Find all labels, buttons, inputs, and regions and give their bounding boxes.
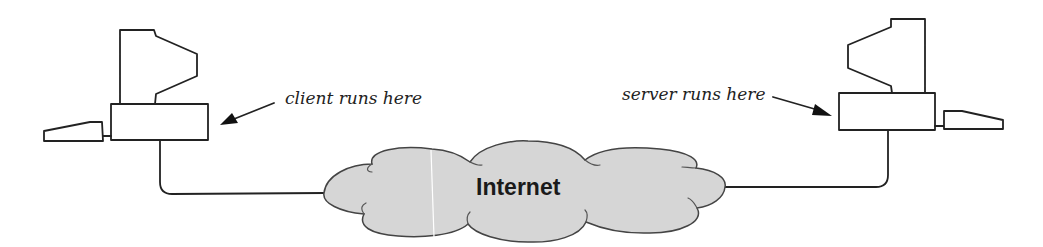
client-label: client runs here [285, 88, 422, 108]
server-network-cable [724, 130, 888, 187]
server-system-unit [839, 93, 935, 130]
server-pointer-arrow [773, 97, 832, 116]
server-computer-icon [839, 19, 1003, 130]
client-keyboard [44, 122, 103, 141]
client-system-unit [111, 104, 208, 140]
client-monitor [120, 30, 197, 104]
server-keyboard [944, 111, 1003, 129]
client-server-diagram [0, 0, 1043, 247]
client-computer-icon [44, 30, 208, 141]
server-monitor [848, 19, 925, 93]
internet-label: Internet [476, 174, 560, 201]
client-network-cable [160, 140, 325, 194]
client-pointer-arrow [220, 103, 274, 125]
server-label: server runs here [622, 84, 765, 104]
